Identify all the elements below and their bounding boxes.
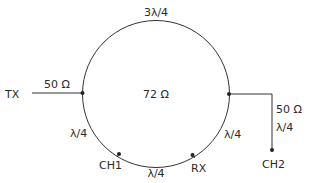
tx-line-label: 50 Ω [44,78,70,91]
rx-label: RX [191,162,207,175]
tx-label: TX [4,88,20,101]
rat-race-diagram: 3λ/4 72 Ω TX 50 Ω λ/4 CH1 λ/4 RX λ/4 50 … [0,0,311,183]
right-lower-arc-label: λ/4 [224,128,241,141]
bottom-arc-label: λ/4 [147,167,164,180]
tx-node [81,91,85,95]
ch2-feed-line [229,94,272,150]
ch2-label: CH2 [262,158,285,171]
ch2-ring-node [227,92,231,96]
ring-impedance-label: 72 Ω [143,88,169,101]
ch2-length-label: λ/4 [276,121,293,134]
top-arc-label: 3λ/4 [144,6,168,19]
ch2-impedance-label: 50 Ω [276,103,302,116]
ch1-label: CH1 [99,159,122,172]
left-lower-arc-label: λ/4 [70,127,87,140]
ch2-end-node [270,148,274,152]
